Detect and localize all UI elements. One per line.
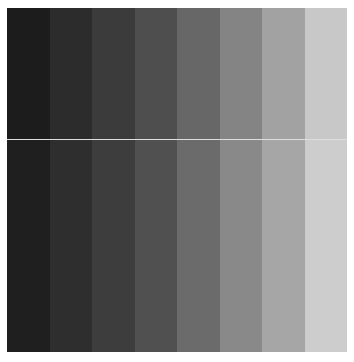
gray-band-4	[135, 8, 178, 352]
band-bottom	[305, 140, 348, 352]
band-bottom	[50, 140, 93, 352]
band-bottom	[135, 140, 178, 352]
gray-band-2	[50, 8, 93, 352]
band-top	[92, 8, 135, 139]
gray-band-7	[262, 8, 305, 352]
band-bottom	[7, 140, 50, 352]
band-top	[262, 8, 305, 139]
band-bottom	[220, 140, 263, 352]
gray-band-6	[220, 8, 263, 352]
gray-band-8	[305, 8, 348, 352]
band-bottom	[92, 140, 135, 352]
band-top	[305, 8, 348, 139]
band-top	[50, 8, 93, 139]
band-top	[135, 8, 178, 139]
gray-band-5	[177, 8, 220, 352]
band-top	[7, 8, 50, 139]
band-bottom	[177, 140, 220, 352]
grayscale-pattern	[7, 8, 347, 352]
gray-band-1	[7, 8, 50, 352]
band-bottom	[262, 140, 305, 352]
band-top	[220, 8, 263, 139]
horizontal-divider-line	[7, 139, 347, 140]
band-top	[177, 8, 220, 139]
gray-band-3	[92, 8, 135, 352]
